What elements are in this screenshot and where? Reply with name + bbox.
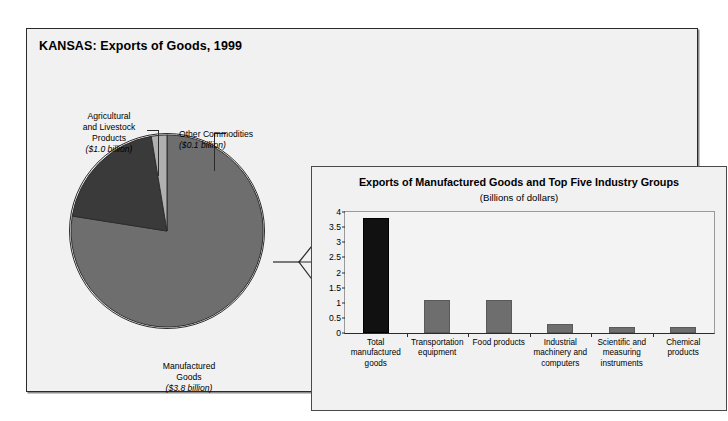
y-axis-tick-mark [342, 257, 346, 258]
bar [363, 218, 389, 333]
x-axis-label-line: goods [331, 359, 420, 369]
y-axis-tick-mark [342, 212, 346, 213]
pie-label-other-line1: Other Commodities [179, 129, 299, 140]
x-axis-label-line: equipment [393, 348, 482, 358]
pie-slices [69, 133, 265, 329]
pie-label-manufactured-amount: ($3.8 billion) [119, 383, 259, 394]
pie-label-agricultural-line1: Agricultural [63, 111, 155, 122]
pie-label-agricultural-line3: Products [63, 133, 155, 144]
y-axis-tick-mark [342, 302, 346, 303]
pie-label-manufactured-goods: Manufactured Goods ($3.8 billion) [119, 361, 259, 394]
bar-chart-panel: Exports of Manufactured Goods and Top Fi… [311, 166, 727, 411]
leader-line-agricultural-vertical [158, 130, 159, 176]
pie-label-agricultural-line2: and Livestock [63, 122, 155, 133]
pie-label-agricultural-amount: ($1.0 billion) [63, 144, 155, 155]
y-axis-tick-label: 0 [336, 328, 341, 338]
pie-chart [69, 133, 265, 329]
x-axis-tick-mark [468, 333, 469, 337]
x-axis-tick-mark [653, 333, 654, 337]
x-axis-label-line: Chemical [639, 338, 728, 348]
y-axis-tick-mark [342, 287, 346, 288]
x-axis-tick-mark [530, 333, 531, 337]
y-axis-tick-mark [342, 333, 346, 334]
y-axis-tick-label: 4 [336, 207, 341, 217]
bar [486, 300, 512, 333]
x-axis-tick-mark [591, 333, 592, 337]
pie-label-other-commodities: Other Commodities ($0.1 billion) [179, 129, 299, 151]
y-axis-tick-label: 1.5 [329, 283, 341, 293]
bar [609, 327, 635, 333]
figure-panel: KANSAS: Exports of Goods, 1999 Agricultu… [26, 28, 698, 392]
bar [670, 327, 696, 333]
pie-label-manufactured-line2: Goods [119, 372, 259, 383]
chart-subtitle: (Billions of dollars) [312, 192, 726, 203]
y-axis-tick-mark [342, 272, 346, 273]
bar [424, 300, 450, 333]
y-axis-tick-mark [342, 242, 346, 243]
x-axis-category-label: Chemicalproducts [639, 338, 728, 359]
y-axis-tick-label: 0.5 [329, 313, 341, 323]
pie-label-manufactured-line1: Manufactured [119, 361, 259, 372]
bar [547, 324, 573, 333]
y-axis-tick-label: 1 [336, 298, 341, 308]
x-axis-label-line: instruments [577, 359, 666, 369]
page-title: KANSAS: Exports of Goods, 1999 [39, 39, 242, 53]
y-axis-tick-label: 3.5 [329, 222, 341, 232]
chart-title: Exports of Manufactured Goods and Top Fi… [312, 176, 726, 188]
y-axis-tick-label: 2 [336, 268, 341, 278]
x-axis-label-line: products [639, 348, 728, 358]
y-axis-tick-mark [342, 317, 346, 318]
pie-label-agricultural: Agricultural and Livestock Products ($1.… [63, 111, 155, 155]
x-axis-tick-mark [407, 333, 408, 337]
y-axis-tick-mark [342, 227, 346, 228]
y-axis-tick-label: 2.5 [329, 252, 341, 262]
y-axis-tick-label: 3 [336, 237, 341, 247]
plot-area: 00.511.522.533.54TotalmanufacturedgoodsT… [344, 211, 715, 334]
pie-label-other-amount: ($0.1 billion) [179, 140, 299, 151]
